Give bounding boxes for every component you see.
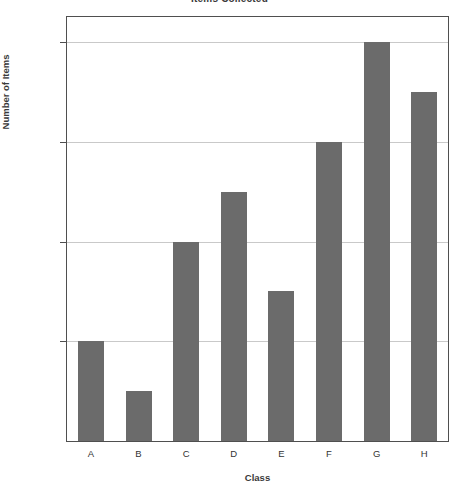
y-axis-title: Number of Items	[0, 7, 11, 177]
gridline	[67, 42, 448, 43]
y-tick-mark	[60, 42, 66, 43]
bar[interactable]	[268, 291, 294, 441]
y-tick-mark	[60, 341, 66, 342]
gridline	[67, 341, 448, 342]
y-tick-mark	[60, 242, 66, 243]
x-tick-label: H	[409, 448, 439, 459]
x-tick-label: F	[314, 448, 344, 459]
bar[interactable]	[364, 42, 390, 441]
plot-area	[66, 16, 449, 442]
bar[interactable]	[316, 142, 342, 441]
x-axis-title: Class	[66, 472, 449, 483]
y-tick-mark	[60, 142, 66, 143]
gridline	[67, 142, 448, 143]
bar[interactable]	[78, 341, 104, 441]
bar[interactable]	[173, 242, 199, 442]
bar[interactable]	[221, 192, 247, 441]
bar[interactable]	[126, 391, 152, 441]
chart-screenshot: Items Collected Number of Items 10012014…	[0, 0, 459, 489]
bar[interactable]	[411, 92, 437, 441]
x-tick-label: E	[266, 448, 296, 459]
x-tick-label: G	[362, 448, 392, 459]
x-tick-label: C	[171, 448, 201, 459]
x-tick-label: A	[76, 448, 106, 459]
chart-title: Items Collected	[0, 0, 459, 4]
x-tick-label: D	[219, 448, 249, 459]
plot-inner	[67, 17, 448, 441]
x-tick-label: B	[123, 448, 153, 459]
gridline	[67, 242, 448, 243]
